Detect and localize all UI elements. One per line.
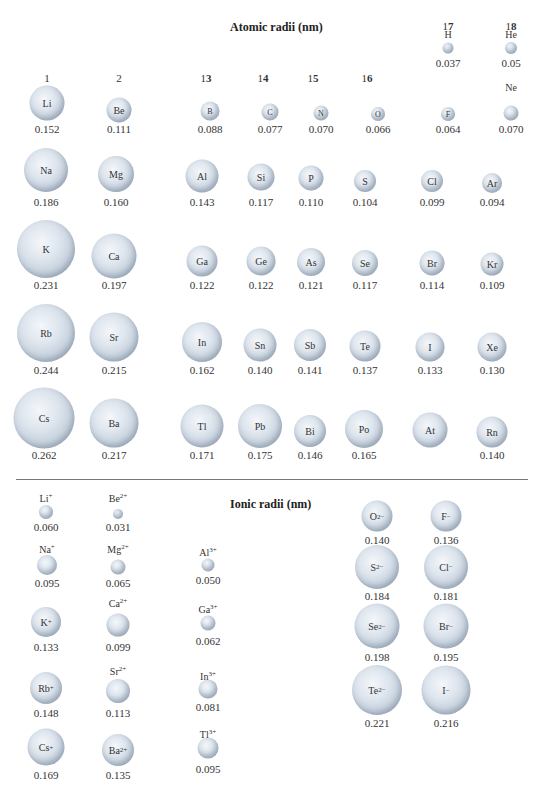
atom-radius-value: 0.137	[353, 364, 378, 376]
atom-sphere-ba: Ba	[90, 399, 139, 448]
ion-radius-value: 0.060	[34, 521, 59, 533]
atom-radius-value: 0.133	[418, 364, 443, 376]
atom-sphere-br: Br	[420, 251, 445, 276]
atom-sphere-se: Se	[352, 250, 378, 276]
atom-sphere-ga: Ga	[187, 246, 218, 277]
atom-radius-value: 0.217	[102, 449, 127, 461]
ion-radius-value: 0.133	[34, 641, 59, 653]
ion-sphere-csplus: Cs+	[28, 729, 65, 766]
atom-radius-value: 0.141	[298, 364, 323, 376]
ion-sphere-tl3plus	[198, 738, 219, 759]
atom-radius-value: 0.094	[480, 196, 505, 208]
atom-radius-value: 0.162	[190, 364, 215, 376]
ion-sphere-te2minus: Te2−	[352, 665, 402, 715]
ion-radius-value: 0.062	[196, 635, 221, 647]
ion-symbol-ca2plus: Ca2+	[109, 597, 128, 609]
atom-sphere-in: In	[182, 322, 222, 362]
atom-sphere-sb: Sb	[294, 329, 326, 361]
ion-sphere-se2minus: Se2−	[355, 604, 400, 649]
ion-sphere-clminus: Cl−	[424, 545, 468, 589]
atom-sphere-bi: Bi	[294, 415, 326, 447]
ion-sphere-liplus	[39, 505, 53, 519]
ion-radius-value: 0.195	[434, 651, 459, 663]
ion-sphere-sr2plus	[106, 679, 130, 703]
ion-sphere-kplus: K+	[31, 607, 61, 637]
atom-radius-value: 0.231	[34, 279, 59, 291]
ion-symbol-al3plus: Al3+	[199, 546, 216, 558]
ion-radius-value: 0.099	[106, 641, 131, 653]
atomic-radii-title: Atomic radii (nm)	[230, 20, 323, 35]
ion-radius-value: 0.148	[34, 707, 59, 719]
atom-sphere-k: K	[17, 220, 75, 278]
ion-sphere-mg2plus	[111, 560, 126, 575]
ion-sphere-al3plus	[202, 559, 215, 572]
atom-sphere-b: B	[201, 102, 220, 121]
atom-sphere-n: N	[314, 106, 329, 121]
atom-radius-value: 0.186	[34, 196, 59, 208]
section-divider	[16, 479, 528, 480]
ion-sphere-rbplus: Rb+	[30, 672, 62, 704]
atom-sphere-ca: Ca	[92, 234, 137, 279]
ion-sphere-fminus: F−	[431, 501, 462, 532]
atom-radius-value: 0.130	[480, 364, 505, 376]
group-label-16: 16	[362, 72, 373, 84]
atom-radius-value: 0.114	[420, 279, 444, 291]
ion-symbol-sr2plus: Sr2+	[110, 665, 126, 677]
ion-sphere-brminus: Br−	[424, 604, 469, 649]
atom-radius-value: 0.244	[34, 364, 59, 376]
atom-radius-value: 0.160	[104, 196, 129, 208]
ion-radius-value: 0.095	[35, 577, 60, 589]
ion-radius-value: 0.181	[434, 590, 459, 602]
atom-sphere-xe: Xe	[478, 333, 507, 362]
atom-sphere-na: Na	[24, 148, 68, 192]
atom-radius-value: 0.146	[298, 449, 323, 461]
atom-radius-value: 0.070	[499, 123, 524, 135]
atom-radius-value: 0.143	[190, 196, 215, 208]
atom-radius-value: 0.171	[190, 449, 215, 461]
atom-radius-value: 0.111	[107, 123, 131, 135]
atom-radius-value: 0.037	[436, 57, 461, 69]
ion-radius-value: 0.095	[196, 763, 221, 775]
ion-symbol-ga3plus: Ga3+	[198, 603, 217, 615]
ion-sphere-be2plus	[113, 509, 123, 519]
atom-radius-value: 0.117	[249, 196, 273, 208]
atom-symbol-h: H	[444, 29, 451, 40]
atom-radius-value: 0.152	[35, 123, 60, 135]
atom-sphere-cl: Cl	[421, 170, 443, 192]
atom-sphere-cs: Cs	[14, 388, 75, 449]
atom-sphere-i: I	[416, 333, 445, 362]
atom-radius-value: 0.064	[436, 123, 461, 135]
atom-sphere-sn: Sn	[244, 329, 277, 362]
ion-symbol-be2plus: Be2+	[109, 492, 128, 504]
ion-symbol-mg2plus: Mg2+	[107, 543, 128, 555]
atom-sphere-be: Be	[107, 98, 132, 123]
ion-radius-value: 0.169	[34, 769, 59, 781]
ion-radius-value: 0.031	[106, 521, 131, 533]
atom-radius-value: 0.122	[190, 279, 215, 291]
ion-sphere-iminus: I−	[422, 666, 471, 715]
ion-radius-value: 0.050	[196, 574, 221, 586]
atom-sphere-p: P	[299, 166, 324, 191]
atom-sphere-rb: Rb	[17, 304, 75, 362]
atom-sphere-kr: Kr	[481, 253, 504, 276]
ion-sphere-ga3plus	[201, 616, 216, 631]
atom-sphere-si: Si	[248, 164, 275, 191]
atom-radius-value: 0.140	[248, 364, 273, 376]
ion-sphere-o2minus: O2−	[362, 501, 393, 532]
ion-symbol-tl3plus: Tl3+	[200, 728, 216, 740]
ion-sphere-ba2plus: Ba2+	[102, 734, 134, 766]
atom-radius-value: 0.070	[309, 123, 334, 135]
atom-radius-value: 0.197	[102, 279, 127, 291]
ion-radius-value: 0.216	[434, 717, 459, 729]
group-label-1: 1	[44, 72, 50, 84]
atom-radius-value: 0.215	[102, 364, 127, 376]
atom-radius-value: 0.165	[352, 449, 377, 461]
atom-radius-value: 0.099	[420, 196, 445, 208]
atom-sphere-sr: Sr	[90, 313, 139, 362]
atom-radius-value: 0.109	[480, 279, 505, 291]
group-label-2: 2	[116, 72, 122, 84]
atom-sphere-po: Po	[345, 410, 383, 448]
ion-radius-value: 0.135	[106, 769, 131, 781]
atom-radius-value: 0.121	[299, 279, 324, 291]
atom-sphere-ge: Ge	[247, 247, 276, 276]
